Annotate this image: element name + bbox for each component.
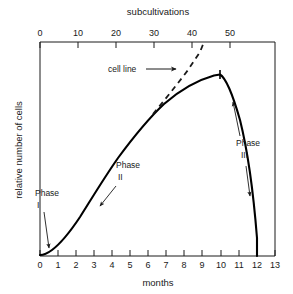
annotation-phase-1: Phase I [35,188,59,248]
bottom-tick-label-11: 11 [234,260,243,270]
bottom-tick-label-10: 10 [216,260,226,270]
y-axis-title: relative number of cells [13,101,24,199]
bottom-axis-tick-labels: 0 1 2 3 4 5 6 7 8 9 10 11 12 13 [37,260,280,270]
bottom-tick-label-1: 1 [55,260,60,270]
bottom-tick-label-13: 13 [270,260,280,270]
phase-3-label-numeral: III [241,150,248,160]
phase-2-leader-arrow [100,186,116,206]
bottom-tick-label-4: 4 [109,260,114,270]
top-tick-label-50: 50 [225,28,235,38]
bottom-axis-ticks [40,250,275,256]
annotation-phase-2: Phase II [100,160,140,206]
phase-2-label-numeral: II [118,172,123,182]
series-cell-line [153,42,204,114]
annotation-cell-line: cell line [108,64,176,74]
top-tick-label-20: 20 [111,28,121,38]
phase-1-label-numeral: I [37,200,39,210]
bottom-tick-label-9: 9 [199,260,204,270]
bottom-tick-label-2: 2 [73,260,78,270]
growth-phase-chart-figure: 0 10 20 30 40 50 subcultivations 0 [0,0,293,294]
series-growth-curve [40,75,257,257]
top-tick-label-30: 30 [149,28,159,38]
phase-1-label-word: Phase [35,188,59,198]
top-tick-label-40: 40 [187,28,197,38]
bottom-tick-label-12: 12 [252,260,262,270]
bottom-tick-label-8: 8 [181,260,186,270]
bottom-tick-label-7: 7 [163,260,168,270]
bottom-tick-label-0: 0 [37,260,42,270]
bottom-tick-label-6: 6 [145,260,150,270]
top-axis-tick-labels: 0 10 20 30 40 50 [37,28,235,38]
chart-canvas: 0 10 20 30 40 50 subcultivations 0 [0,0,293,294]
phase-3-label-word: Phase [236,138,260,148]
bottom-tick-label-5: 5 [127,260,132,270]
top-tick-label-0: 0 [37,28,42,38]
top-axis-title: subcultivations [127,6,190,17]
bottom-tick-label-3: 3 [91,260,96,270]
top-tick-label-10: 10 [73,28,83,38]
phase-2-label-word: Phase [116,160,140,170]
bottom-axis-title: months [142,277,173,288]
phase-1-leader-arrow [44,212,49,248]
cell-line-label: cell line [108,64,137,74]
